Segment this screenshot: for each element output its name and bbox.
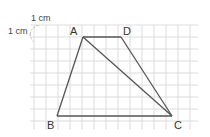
vertex-label-a: A [70, 26, 77, 37]
vertex-label-d: D [123, 26, 131, 37]
unit-brace [30, 25, 40, 42]
unit-label-top: 1 cm [31, 14, 51, 23]
vertex-label-b: B [47, 120, 54, 131]
vertex-label-c: C [174, 120, 182, 131]
grid [30, 25, 198, 130]
unit-label-left: 1 cm [8, 27, 28, 36]
